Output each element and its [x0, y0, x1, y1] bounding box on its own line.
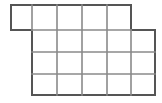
grid-cell-r0-c2 [57, 5, 82, 30]
grid-cell-r2-c1 [57, 52, 82, 74]
grid-cell-r3-c2 [82, 74, 107, 95]
grid-cell-r3-c4 [131, 74, 155, 95]
grid-cell-r2-c0 [32, 52, 57, 74]
grid-cell-r2-c3 [107, 52, 131, 74]
grid-cell-r3-c3 [107, 74, 131, 95]
grid-cell-r0-c1 [32, 5, 57, 30]
grid-cell-r1-c0 [32, 30, 57, 52]
grid-cell-r0-c0 [11, 5, 32, 30]
grid-cell-r1-c4 [131, 30, 155, 52]
grid-cell-r3-c1 [57, 74, 82, 95]
grid-cell-r1-c3 [107, 30, 131, 52]
grid-cell-r1-c2 [82, 30, 107, 52]
grid-cell-r3-c0 [32, 74, 57, 95]
grid-cell-r0-c3 [82, 5, 107, 30]
grid-figure [0, 0, 162, 103]
figure-canvas [0, 0, 162, 103]
grid-cell-r2-c4 [131, 52, 155, 74]
grid-cell-r1-c1 [57, 30, 82, 52]
grid-cell-r0-c4 [107, 5, 131, 30]
grid-cell-r2-c2 [82, 52, 107, 74]
